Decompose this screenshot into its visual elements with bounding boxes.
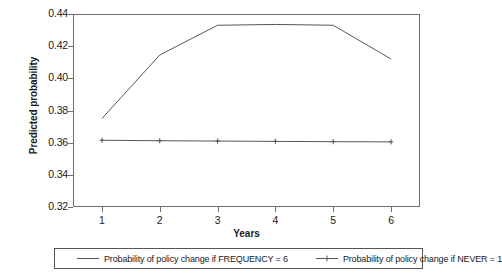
series-marker-1 (215, 138, 219, 143)
x-axis-tick-mark (160, 207, 161, 212)
x-axis-tick-mark (333, 207, 334, 212)
series-marker-1 (331, 139, 335, 144)
y-axis-tick-label: 0.40 (28, 72, 68, 82)
plot-series-layer (73, 14, 420, 207)
y-axis-tick-mark (68, 78, 73, 79)
y-axis-tick-label: 0.36 (28, 137, 68, 147)
legend-line-icon (77, 254, 99, 263)
x-axis-tick-mark (275, 207, 276, 212)
series-line-1 (102, 140, 391, 142)
x-axis-title: Years (73, 228, 420, 239)
series-marker-1 (100, 138, 104, 143)
y-axis-tick-mark (68, 143, 73, 144)
y-axis-tick-labels: 0.320.340.360.380.400.420.44 (24, 0, 68, 278)
legend-label: Probability of policy change if FREQUENC… (104, 254, 288, 264)
x-axis-tick-mark (102, 207, 103, 212)
y-axis-tick-label: 0.42 (28, 40, 68, 50)
legend-entry[interactable]: Probability of policy change if NEVER = … (316, 254, 502, 264)
chart-legend: Probability of policy change if FREQUENC… (54, 248, 423, 269)
x-axis-tick-label: 3 (206, 214, 230, 226)
series-line-0 (102, 24, 391, 118)
y-axis-tick-mark (68, 14, 73, 15)
y-axis-tick-mark (68, 175, 73, 176)
y-axis-tick-mark (68, 207, 73, 208)
series-marker-1 (158, 138, 162, 143)
x-axis-tick-mark (218, 207, 219, 212)
series-marker-1 (389, 139, 393, 144)
legend-label: Probability of policy change if NEVER = … (343, 254, 502, 264)
y-axis-tick-label: 0.44 (28, 8, 68, 18)
y-axis-tick-label: 0.38 (28, 105, 68, 115)
x-axis-tick-label: 4 (263, 214, 287, 226)
x-axis-tick-mark (391, 207, 392, 212)
x-axis-tick-label: 6 (379, 214, 403, 226)
y-axis-tick-label: 0.34 (28, 169, 68, 179)
x-axis-tick-label: 1 (90, 214, 114, 226)
legend-line-plus-icon (316, 254, 338, 263)
legend-entry[interactable]: Probability of policy change if FREQUENC… (77, 254, 288, 264)
y-axis-tick-mark (68, 46, 73, 47)
y-axis-tick-label: 0.32 (28, 201, 68, 211)
y-axis-tick-mark (68, 111, 73, 112)
x-axis-tick-label: 5 (321, 214, 345, 226)
x-axis-tick-label: 2 (148, 214, 172, 226)
series-marker-1 (273, 139, 277, 144)
